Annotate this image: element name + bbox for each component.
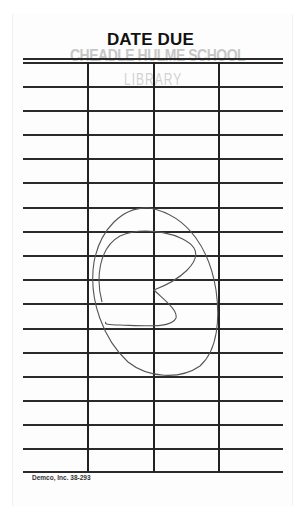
card-footer: Demco, Inc. 38-293 — [32, 474, 91, 481]
pencil-scribble — [0, 0, 301, 512]
